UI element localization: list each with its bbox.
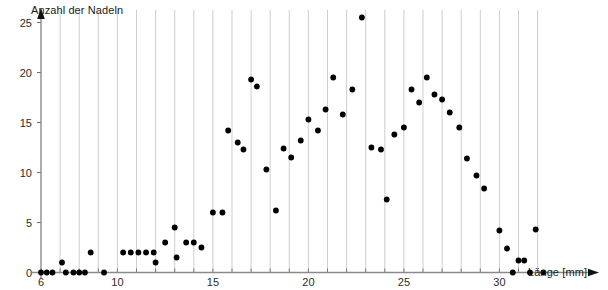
data-point bbox=[533, 227, 539, 233]
data-point bbox=[401, 125, 407, 131]
data-point bbox=[263, 167, 269, 173]
data-point bbox=[143, 250, 149, 256]
y-tick-label: 5 bbox=[8, 217, 32, 229]
data-point bbox=[315, 128, 321, 134]
data-point bbox=[76, 270, 82, 276]
data-point bbox=[225, 128, 231, 134]
data-point bbox=[391, 132, 397, 138]
data-point bbox=[63, 270, 69, 276]
data-point bbox=[71, 270, 77, 276]
data-point bbox=[220, 210, 226, 216]
data-point bbox=[369, 145, 375, 151]
data-point bbox=[199, 245, 205, 251]
data-point bbox=[38, 270, 44, 276]
data-point bbox=[474, 173, 480, 179]
data-point bbox=[323, 107, 329, 113]
data-point bbox=[174, 255, 180, 261]
data-point bbox=[44, 270, 50, 276]
data-point bbox=[439, 97, 445, 103]
data-point bbox=[172, 225, 178, 231]
data-point bbox=[464, 156, 470, 162]
y-tick-label: 0 bbox=[8, 267, 32, 279]
data-point bbox=[409, 87, 415, 93]
plot-canvas bbox=[0, 0, 608, 290]
data-point bbox=[136, 250, 142, 256]
data-point bbox=[481, 186, 487, 192]
data-point bbox=[162, 240, 168, 246]
x-tick-label: 30 bbox=[493, 276, 505, 288]
data-point bbox=[416, 100, 422, 106]
data-point bbox=[82, 270, 88, 276]
data-point bbox=[359, 15, 365, 21]
data-point bbox=[497, 228, 503, 234]
x-tick-label: 6 bbox=[38, 276, 44, 288]
data-point bbox=[521, 258, 527, 264]
data-point bbox=[330, 75, 336, 81]
data-point bbox=[447, 110, 453, 116]
y-tick-label: 10 bbox=[8, 167, 32, 179]
data-point bbox=[191, 240, 197, 246]
data-point bbox=[456, 125, 462, 131]
data-point bbox=[235, 140, 241, 146]
y-axis-title: Anzahl der Nadeln bbox=[31, 4, 123, 16]
data-point bbox=[432, 92, 438, 98]
data-point bbox=[504, 246, 510, 252]
data-point bbox=[349, 87, 355, 93]
data-point bbox=[151, 250, 157, 256]
data-point bbox=[378, 147, 384, 153]
data-point bbox=[153, 260, 159, 266]
data-point bbox=[288, 155, 294, 161]
x-tick-label: 10 bbox=[111, 276, 123, 288]
data-point bbox=[384, 197, 390, 203]
x-tick-label: 20 bbox=[302, 276, 314, 288]
data-point bbox=[298, 138, 304, 144]
data-point bbox=[254, 84, 260, 90]
data-point bbox=[101, 270, 107, 276]
x-axis-title: Länge [mm] bbox=[528, 266, 587, 278]
data-point bbox=[241, 147, 247, 153]
data-point bbox=[306, 117, 312, 123]
x-tick-label: 15 bbox=[207, 276, 219, 288]
x-axis-arrow-icon bbox=[588, 269, 599, 277]
data-point bbox=[340, 112, 346, 118]
data-point bbox=[183, 240, 189, 246]
y-tick-label: 20 bbox=[8, 67, 32, 79]
y-tick-label: 15 bbox=[8, 117, 32, 129]
data-point-layer bbox=[38, 15, 546, 276]
data-point bbox=[210, 210, 216, 216]
data-point bbox=[281, 146, 287, 152]
data-point bbox=[424, 75, 430, 81]
data-point bbox=[50, 270, 56, 276]
scatter-chart: Anzahl der Nadeln Länge [mm] 05101520256… bbox=[0, 0, 608, 290]
data-point bbox=[510, 270, 516, 276]
data-point bbox=[248, 77, 254, 83]
data-point bbox=[59, 260, 65, 266]
data-point bbox=[120, 250, 126, 256]
data-point bbox=[516, 258, 522, 264]
data-point bbox=[128, 250, 134, 256]
x-tick-label: 25 bbox=[398, 276, 410, 288]
data-point bbox=[88, 250, 94, 256]
data-point bbox=[273, 208, 279, 214]
y-tick-label: 25 bbox=[8, 17, 32, 29]
